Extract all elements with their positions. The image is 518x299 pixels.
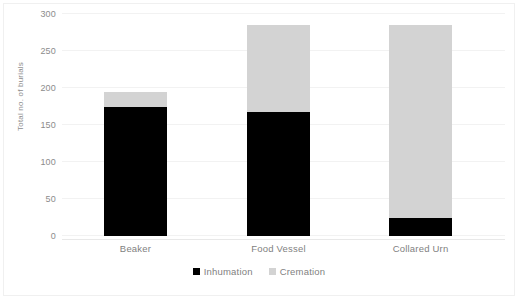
legend-label: Cremation <box>280 266 326 277</box>
bar-segment-inhumation[interactable] <box>389 218 452 237</box>
bar-group[interactable] <box>389 25 452 236</box>
legend-swatch-icon <box>193 268 200 275</box>
y-tick-label: 300 <box>40 9 56 19</box>
x-axis-labels: BeakerFood VesselCollared Urn <box>62 243 505 261</box>
bar-group[interactable] <box>104 92 167 236</box>
legend-label: Inhumation <box>204 266 253 277</box>
y-axis-ticks: 050100150200250300 <box>30 14 56 240</box>
x-axis-baseline <box>62 239 505 240</box>
gridline <box>62 13 505 14</box>
bar-segment-inhumation[interactable] <box>104 107 167 237</box>
bar-segment-cremation[interactable] <box>104 92 167 107</box>
legend-swatch-icon <box>269 268 276 275</box>
y-tick-label: 50 <box>46 194 56 204</box>
bar-group[interactable] <box>247 25 310 236</box>
y-tick-label: 0 <box>51 231 56 241</box>
y-tick-label: 200 <box>40 83 56 93</box>
x-tick-label-beaker: Beaker <box>120 243 151 254</box>
x-tick-label-collared-urn: Collared Urn <box>393 243 449 254</box>
legend-item-inhumation[interactable]: Inhumation <box>193 266 253 277</box>
y-axis-title: Total no. of burials <box>16 52 25 142</box>
chart-legend: InhumationCremation <box>0 266 518 277</box>
y-tick-label: 250 <box>40 46 56 56</box>
bar-segment-cremation[interactable] <box>247 25 310 112</box>
legend-item-cremation[interactable]: Cremation <box>269 266 326 277</box>
y-tick-label: 150 <box>40 120 56 130</box>
x-tick-label-food-vessel: Food Vessel <box>251 243 305 254</box>
bar-segment-inhumation[interactable] <box>247 112 310 236</box>
bar-segment-cremation[interactable] <box>389 25 452 217</box>
plot-area <box>62 14 505 240</box>
stacked-bar-chart: Total no. of burials 050100150200250300 … <box>0 0 518 299</box>
y-tick-label: 100 <box>40 157 56 167</box>
